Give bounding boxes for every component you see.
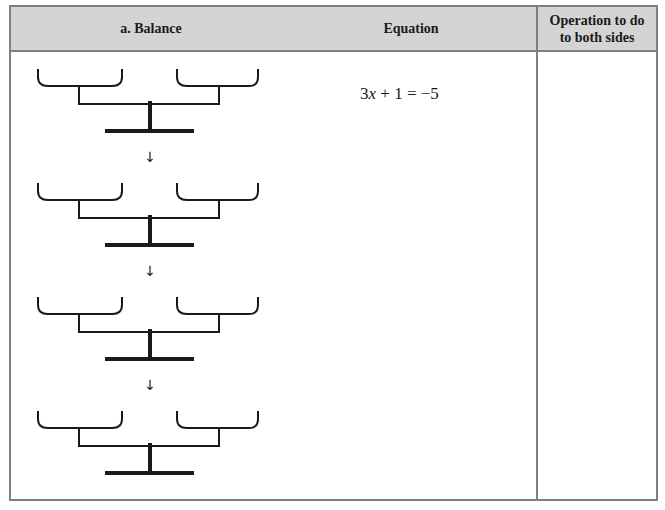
balance-2 bbox=[38, 183, 258, 245]
down-arrow-icon: ↓ bbox=[144, 263, 156, 279]
balance-diagrams: ↓ ↓ ↓ bbox=[0, 0, 665, 510]
down-arrow-icon: ↓ bbox=[144, 377, 156, 393]
balance-4 bbox=[38, 411, 258, 473]
down-arrow-icon: ↓ bbox=[144, 149, 156, 165]
balance-1 bbox=[38, 69, 258, 131]
balance-3 bbox=[38, 297, 258, 359]
